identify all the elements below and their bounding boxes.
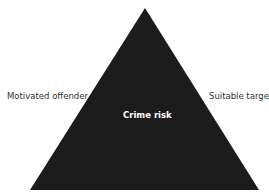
suitable-target-label: Suitable target bbox=[209, 92, 269, 101]
motivated-offender-label: Motivated offender bbox=[7, 92, 88, 101]
crime-risk-label: Crime risk bbox=[123, 111, 172, 120]
